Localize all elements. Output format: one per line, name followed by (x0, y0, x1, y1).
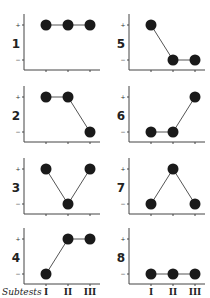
data-point (168, 55, 179, 66)
data-point (168, 127, 179, 138)
y-tick-label: − (120, 200, 125, 207)
y-tick-label: + (120, 235, 125, 242)
panel-5: +−5 (105, 0, 210, 72)
x-axis-title: Subtests (2, 287, 42, 297)
y-tick-label: + (15, 93, 20, 100)
x-tick-label: II (64, 287, 72, 297)
y-tick-label: + (15, 165, 20, 172)
y-tick-label: + (120, 165, 125, 172)
panel-number-label: 4 (12, 251, 20, 265)
y-tick-label: + (15, 21, 20, 28)
y-tick-label: − (120, 128, 125, 135)
panel-number-label: 5 (117, 37, 125, 51)
panel-7: +−7 (105, 144, 210, 216)
data-point (41, 20, 52, 31)
y-tick-label: − (15, 270, 20, 277)
panel-number-label: 7 (117, 181, 125, 195)
panel-chart-2: +−2 (0, 72, 105, 144)
panel-number-label: 2 (12, 109, 20, 123)
data-point (168, 164, 179, 175)
data-point (146, 199, 157, 210)
data-point (63, 92, 74, 103)
panel-chart-1: +−1 (0, 0, 105, 72)
panel-chart-4: +−4IIIIIISubtests (0, 214, 105, 298)
y-tick-label: + (120, 21, 125, 28)
panel-number-label: 8 (117, 251, 125, 265)
x-tick-label: I (149, 287, 153, 297)
panel-6: +−6 (105, 72, 210, 144)
data-point (85, 234, 96, 245)
data-point (190, 92, 201, 103)
panel-2: +−2 (0, 72, 105, 144)
y-tick-label: + (120, 93, 125, 100)
data-point (63, 199, 74, 210)
data-point (146, 20, 157, 31)
panel-chart-5: +−5 (105, 0, 210, 72)
y-tick-label: + (15, 235, 20, 242)
data-point (146, 127, 157, 138)
y-tick-label: − (15, 56, 20, 63)
data-point (85, 127, 96, 138)
x-tick-label: II (169, 287, 177, 297)
x-tick-label: III (84, 287, 97, 297)
x-tick-label: III (189, 287, 202, 297)
panel-number-label: 3 (12, 181, 20, 195)
y-tick-label: − (120, 270, 125, 277)
panel-number-label: 6 (117, 109, 125, 123)
panel-chart-7: +−7 (105, 144, 210, 216)
panel-4: +−4IIIIIISubtests (0, 214, 105, 298)
data-point (85, 20, 96, 31)
data-point (190, 199, 201, 210)
panel-8: +−8IIIIII (105, 214, 210, 298)
data-point (63, 234, 74, 245)
data-point (146, 269, 157, 280)
panel-chart-3: +−3 (0, 144, 105, 216)
data-point (63, 20, 74, 31)
data-point (41, 92, 52, 103)
panel-3: +−3 (0, 144, 105, 216)
data-point (41, 164, 52, 175)
panel-number-label: 1 (12, 37, 20, 51)
x-tick-label: I (44, 287, 48, 297)
y-tick-label: − (15, 128, 20, 135)
y-tick-label: − (120, 56, 125, 63)
data-point (85, 164, 96, 175)
data-point (41, 269, 52, 280)
y-tick-label: − (15, 200, 20, 207)
panel-1: +−1 (0, 0, 105, 72)
panel-chart-8: +−8IIIIII (105, 214, 210, 298)
data-point (168, 269, 179, 280)
panel-chart-6: +−6 (105, 72, 210, 144)
data-point (190, 269, 201, 280)
data-point (190, 55, 201, 66)
